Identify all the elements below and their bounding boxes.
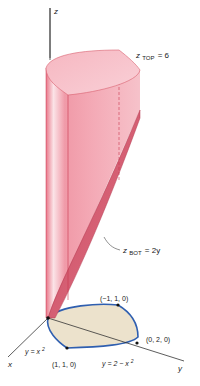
curve-upper-label: y = 2 − x 2: [101, 358, 134, 368]
curve-lower-label: y = x 2: [24, 346, 45, 356]
z-bot-sub: BOT: [129, 250, 142, 256]
solid-side: [46, 70, 140, 318]
curve-upper-exp: 2: [130, 358, 134, 364]
point-neg1-1-0: [116, 303, 119, 306]
point-origin: [46, 316, 50, 320]
curve-lower-exp: 2: [41, 346, 45, 352]
x-axis-label: x: [7, 360, 13, 369]
point-label-0-2-0: (0, 2, 0): [146, 336, 170, 344]
base-region: [48, 304, 138, 348]
curve-upper-text: y = 2 − x: [101, 360, 129, 368]
z-top-label: z TOP = 6: [135, 51, 170, 62]
point-0-2-0: [135, 341, 138, 344]
z-bot-rhs: = 2y: [145, 246, 160, 255]
z-top-rhs: = 6: [158, 51, 170, 60]
z-axis-label: z: [53, 7, 58, 16]
y-axis-label: y: [177, 364, 183, 373]
z-bot-label: z BOT = 2y: [122, 246, 160, 257]
point-1-1-0: [65, 346, 68, 349]
z-top-var: z: [135, 51, 140, 60]
point-label-neg1-1-0: (−1, 1, 0): [100, 295, 128, 303]
z-top-sub: TOP: [142, 55, 154, 61]
zbot-leader: [104, 237, 120, 250]
curve-lower-text: y = x: [24, 348, 40, 356]
point-label-1-1-0: (1, 1, 0): [52, 361, 76, 369]
solid-region-diagram: z x y z TOP = 6 z BOT = 2y y = x 2 y = 2…: [0, 0, 200, 386]
z-bot-var: z: [122, 246, 127, 255]
